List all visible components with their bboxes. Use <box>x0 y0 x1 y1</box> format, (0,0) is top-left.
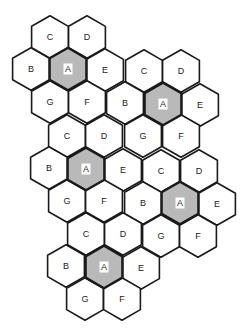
cell-label: A <box>83 164 89 174</box>
cell-label: B <box>122 98 128 108</box>
cell-label: D <box>120 229 127 239</box>
cell-label: A <box>177 198 183 208</box>
cell-label: D <box>196 166 203 176</box>
cell-label: F <box>195 231 201 241</box>
cell-label: E <box>102 65 108 75</box>
cell-label: D <box>178 66 185 76</box>
cell-label: C <box>141 66 148 76</box>
cell-label: B <box>63 261 69 271</box>
cell-label: F <box>84 97 90 107</box>
cell-label: E <box>197 100 203 110</box>
cell-label: A <box>101 262 107 272</box>
cell-label: E <box>214 199 220 209</box>
cell-label: G <box>63 196 70 206</box>
cell-label: C <box>47 32 54 42</box>
cell-label: C <box>64 131 71 141</box>
cell-label: F <box>178 131 184 141</box>
cell-label: C <box>83 229 90 239</box>
cell-label: B <box>28 64 34 74</box>
cell-label: G <box>46 97 53 107</box>
cell-label: E <box>120 165 126 175</box>
cell-label: C <box>158 166 165 176</box>
cell-label: G <box>81 294 88 304</box>
cell-label: D <box>101 131 108 141</box>
cell-label: B <box>140 198 146 208</box>
cell-label: G <box>157 231 164 241</box>
hex-grid: CDBAEGFCDBAEGFCDBAEGFCDBAEGFCDBAEGF <box>0 0 251 334</box>
cell-label: G <box>139 131 146 141</box>
cell-label: F <box>101 196 107 206</box>
cell-label: D <box>84 32 91 42</box>
cell-label: F <box>119 294 125 304</box>
hex-cell-diagram: CDBAEGFCDBAEGFCDBAEGFCDBAEGFCDBAEGF <box>0 0 251 334</box>
cell-label: E <box>138 263 144 273</box>
cell-label: A <box>160 99 166 109</box>
cell-label: A <box>65 64 71 74</box>
cell-label: B <box>46 163 52 173</box>
